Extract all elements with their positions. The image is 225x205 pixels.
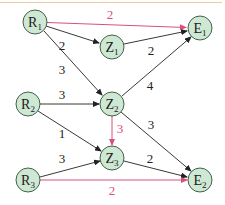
node-subscript: 2	[30, 104, 35, 114]
weight-r2-z2: 3	[59, 87, 66, 102]
edge-r3-z3	[40, 161, 100, 177]
node-e1: E1	[188, 16, 212, 40]
weight-r3-e2: 2	[109, 183, 116, 198]
edge-z3-e2	[124, 161, 187, 177]
weight-z2-z3: 3	[117, 121, 124, 136]
edge-z2-e1	[122, 37, 191, 96]
node-subscript: 2	[202, 180, 207, 190]
weight-z2-e2: 3	[148, 117, 155, 132]
edge-z2-e2	[121, 112, 191, 171]
node-subscript: 1	[37, 22, 42, 32]
node-letter: Z	[105, 40, 114, 55]
edge-r2-z3	[38, 111, 101, 151]
weight-r1-z2: 3	[59, 62, 66, 77]
node-e2: E2	[188, 168, 212, 192]
edge-r1-z2	[44, 31, 102, 95]
node-r1: R1	[23, 10, 47, 34]
weight-z2-e1: 4	[147, 78, 154, 93]
node-letter: E	[193, 21, 202, 36]
node-z3: Z3	[100, 146, 124, 170]
node-subscript: 1	[114, 47, 119, 57]
network-diagram: 2 2 3 2 4 3 1 3 3 3 2 2 R1 Z1 E1 R2 Z2 Z…	[0, 0, 225, 205]
node-subscript: 3	[30, 180, 35, 190]
weight-r1-e1: 2	[107, 7, 114, 22]
node-subscript: 3	[114, 158, 119, 168]
weight-r1-z1: 2	[59, 38, 66, 53]
node-letter: E	[193, 173, 202, 188]
node-letter: Z	[105, 97, 114, 112]
weight-r2-z3: 1	[59, 126, 66, 141]
weight-z3-e2: 2	[147, 151, 154, 166]
weight-r3-z3: 3	[59, 151, 66, 166]
node-z1: Z1	[100, 35, 124, 59]
node-z2: Z2	[100, 92, 124, 116]
edge-r1-e1	[47, 23, 186, 28]
node-r3: R3	[16, 168, 40, 192]
edge-z1-e1	[124, 31, 187, 44]
edge-r1-z1	[46, 26, 99, 43]
weight-z1-e1: 2	[148, 43, 155, 58]
node-r2: R2	[16, 92, 40, 116]
node-letter: Z	[105, 151, 114, 166]
node-subscript: 2	[114, 104, 119, 114]
node-subscript: 1	[202, 28, 207, 38]
